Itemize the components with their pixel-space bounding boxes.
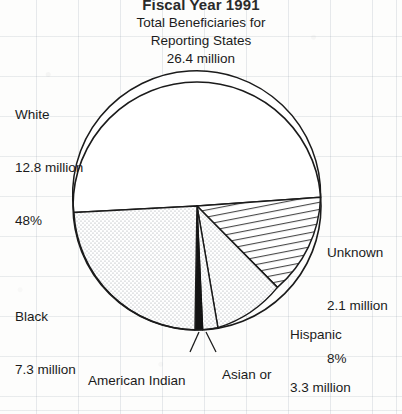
pie-label-white-name: White: [15, 107, 83, 123]
pie-label-white-amount: 12.8 million: [15, 160, 83, 176]
pie-label-asian-name-line-1: Asian or: [222, 367, 275, 383]
subtitle-line-1: Total Beneficiaries for: [0, 14, 402, 32]
chart-title: Fiscal Year 1991: [0, 0, 402, 13]
subtitle-total-value: 26.4 million: [0, 50, 402, 68]
pie-label-hispanic: Hispanic 3.3 million 13%: [290, 290, 351, 414]
pie-label-white-percent: 48%: [15, 213, 83, 229]
subtitle-line-2: Reporting States: [0, 32, 402, 50]
chart-subtitle: Total Beneficiaries for Reporting States…: [0, 14, 402, 67]
pie-label-hispanic-name: Hispanic: [290, 327, 351, 343]
pie-slice-black: [74, 206, 197, 330]
pie-label-asian-pacific-islander: Asian or Pacific Islander .6 million 2%: [222, 330, 275, 414]
pie-label-hispanic-amount: 3.3 million: [290, 380, 351, 396]
pie-label-american-indian: American Indian or Alaskan native .2 mil…: [88, 336, 191, 414]
pie-label-american-indian-name-line-1: American Indian: [88, 373, 191, 389]
pie-label-unknown-name: Unknown: [327, 245, 388, 261]
pie-label-white: White 12.8 million 48%: [15, 70, 83, 247]
pie-slice-white: [73, 71, 321, 213]
pie-label-black-name: Black: [15, 309, 76, 325]
pie-label-black: Black 7.3 million 28%: [15, 272, 76, 414]
pie-label-black-amount: 7.3 million: [15, 362, 76, 378]
